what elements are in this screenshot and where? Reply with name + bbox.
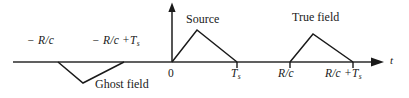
tick-label-true-end-T: T: [352, 67, 359, 79]
tick-label-source-end-T: T: [231, 67, 238, 79]
vertical-axis-arrowhead: [168, 3, 175, 13]
axis-label-time: t: [390, 55, 393, 66]
annotation-ghost-field: Ghost field: [95, 78, 149, 90]
signal-timing-diagram: − R/c − R/c +Ts 0 Ts R/c R/c +Ts t Ghost…: [0, 0, 409, 98]
tick-label-ghost-end: − R/c +Ts: [92, 35, 140, 47]
tick-label-ghost-start: − R/c: [27, 35, 54, 47]
tick-label-origin: 0: [168, 68, 174, 80]
annotation-source: Source: [186, 13, 219, 25]
tick-label-true-end-expr: R/c +: [325, 67, 352, 79]
source-pulse: [172, 30, 237, 62]
true-field-pulse: [290, 34, 353, 62]
tick-label-ghost-end-subscript: s: [137, 39, 140, 48]
tick-label-ghost-end-T: T: [130, 34, 137, 46]
tick-label-true-end: R/c +Ts: [325, 68, 362, 80]
annotation-true-field: True field: [292, 11, 339, 23]
tick-label-ghost-end-expr: − R/c +: [92, 34, 130, 46]
tick-label-source-end: Ts: [231, 68, 241, 80]
tick-label-true-end-subscript: s: [359, 72, 362, 81]
tick-label-source-end-subscript: s: [238, 72, 241, 81]
tick-label-true-start: R/c: [278, 68, 294, 80]
time-axis-arrowhead: [371, 58, 384, 67]
